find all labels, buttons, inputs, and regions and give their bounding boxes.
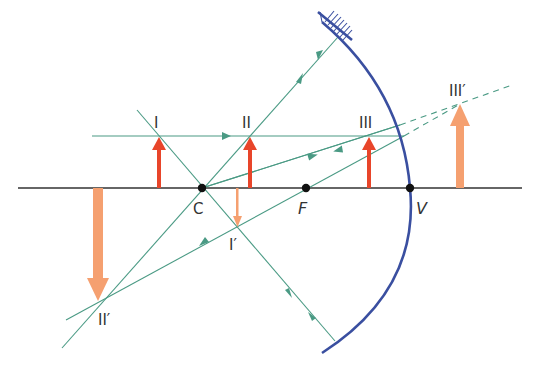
object-II — [243, 137, 257, 188]
label-F: F — [298, 199, 308, 218]
ray-arrowheads — [199, 50, 344, 321]
images — [87, 104, 470, 301]
ray-through-center-bottom — [137, 110, 335, 341]
object-I — [152, 137, 166, 188]
label-I: I — [154, 114, 158, 132]
object-III — [362, 137, 376, 188]
label-II: II — [242, 114, 251, 132]
arrow-left-upper-icon — [332, 146, 344, 156]
arrow-upright-icon — [296, 73, 303, 84]
point-V — [406, 184, 414, 192]
image-II-prime — [87, 188, 109, 301]
point-C — [198, 184, 206, 192]
ray-reflected-through-focus — [66, 136, 404, 320]
label-V: V — [416, 199, 428, 218]
ray-through-center-top — [62, 37, 338, 348]
image-I-prime — [233, 188, 242, 227]
label-III-prime: III′ — [449, 82, 466, 100]
concave-mirror-diagram: C F V I II III I′ II′ III′ — [0, 0, 535, 377]
image-III-prime — [450, 104, 470, 188]
label-C: C — [193, 200, 203, 218]
arrow-right-icon — [222, 132, 231, 140]
label-II-prime: II′ — [98, 311, 111, 329]
label-III: III — [359, 114, 372, 132]
mirror-top-edge — [318, 12, 352, 40]
arrow-right-upper-icon — [307, 151, 319, 161]
objects — [152, 137, 376, 188]
rays — [62, 37, 404, 348]
point-F — [302, 184, 310, 192]
label-I-prime: I′ — [229, 236, 237, 254]
